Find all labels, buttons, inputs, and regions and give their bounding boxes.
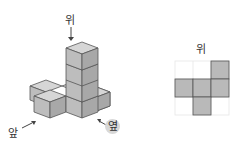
front-arrow-icon (22, 123, 32, 128)
top-view-grid (175, 61, 229, 115)
top-view-cell (211, 79, 229, 97)
top-view-cell (193, 97, 211, 115)
top-view-title: 위 (196, 40, 206, 56)
side-direction-label: 옆 (105, 119, 120, 134)
front-direction-label: 앞 (8, 124, 18, 140)
cube-stack (30, 42, 110, 118)
top-view-cell (211, 61, 229, 79)
top-direction-label: 위 (65, 11, 75, 27)
top-view-cell (193, 79, 211, 97)
top-view-cell (175, 79, 193, 97)
isometric-cube-figure (0, 0, 244, 145)
